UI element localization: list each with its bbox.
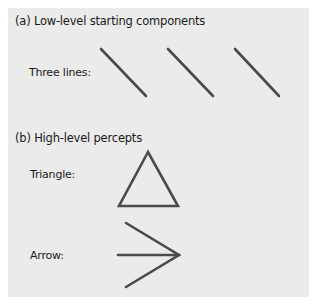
diagonal-line-2	[168, 49, 213, 96]
diagonal-line-1	[101, 49, 146, 96]
figure-shapes	[0, 0, 318, 306]
arrow-figure	[118, 223, 179, 287]
diagonal-line-3	[235, 49, 279, 96]
three-lines-figure	[101, 49, 279, 96]
triangle-figure	[119, 152, 178, 206]
